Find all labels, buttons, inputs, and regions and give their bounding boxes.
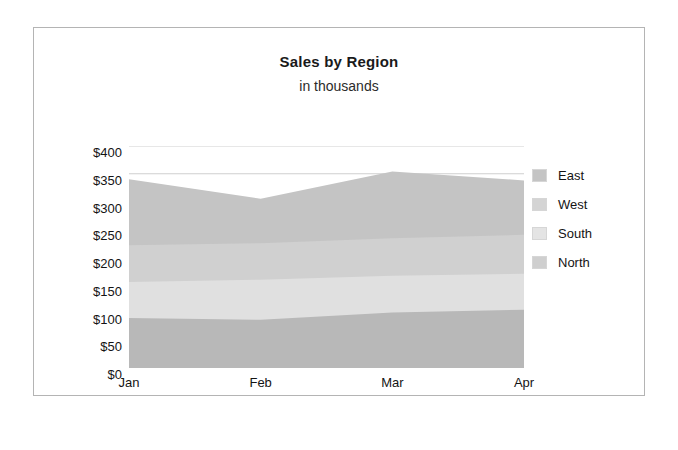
legend-label: West <box>558 197 587 212</box>
legend-item[interactable]: South <box>532 219 642 248</box>
legend-item[interactable]: West <box>532 190 642 219</box>
y-tick-label: $50 <box>34 340 122 353</box>
x-tick-label: Apr <box>489 375 559 390</box>
x-tick-label: Jan <box>94 375 164 390</box>
chart-title: Sales by Region <box>34 53 644 70</box>
y-tick-label: $100 <box>34 313 122 326</box>
legend-item[interactable]: North <box>532 248 642 277</box>
chart-legend: EastWestSouthNorth <box>532 161 642 277</box>
x-tick-label: Feb <box>226 375 296 390</box>
y-tick-label: $250 <box>34 229 122 242</box>
y-axis: $0$50$100$150$200$250$300$350$400 <box>34 138 122 378</box>
x-tick-label: Mar <box>357 375 427 390</box>
legend-label: East <box>558 168 584 183</box>
legend-label: South <box>558 226 592 241</box>
y-tick-label: $150 <box>34 285 122 298</box>
y-tick-label: $400 <box>34 146 122 159</box>
legend-item[interactable]: East <box>532 161 642 190</box>
legend-swatch-icon <box>532 227 547 240</box>
stacked-area-plot <box>129 146 524 368</box>
y-tick-label: $200 <box>34 257 122 270</box>
chart-frame: Sales by Region in thousands $0$50$100$1… <box>33 27 645 396</box>
legend-swatch-icon <box>532 256 547 269</box>
legend-swatch-icon <box>532 198 547 211</box>
y-tick-label: $300 <box>34 202 122 215</box>
y-tick-label: $350 <box>34 174 122 187</box>
legend-swatch-icon <box>532 169 547 182</box>
chart-subtitle: in thousands <box>34 78 644 94</box>
plot-area <box>129 146 524 368</box>
legend-label: North <box>558 255 590 270</box>
x-axis: JanFebMarApr <box>129 375 524 395</box>
